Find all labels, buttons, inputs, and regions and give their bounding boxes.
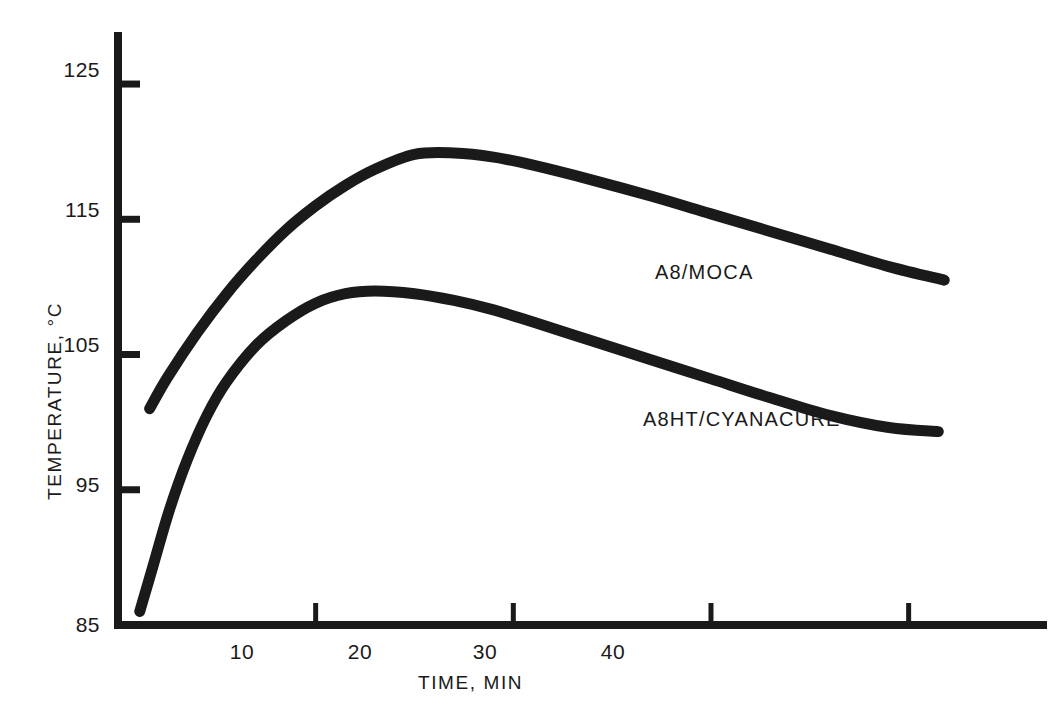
x-axis-title: TIME, MIN bbox=[418, 672, 523, 694]
data-curves-group bbox=[140, 153, 944, 612]
chart-figure: 125 115 105 95 85 10 20 30 40 A8/MOCA A8… bbox=[0, 0, 1052, 727]
xtick-label-20: 20 bbox=[330, 640, 390, 664]
xtick-label-30: 30 bbox=[455, 640, 515, 664]
xtick-label-10: 10 bbox=[212, 640, 272, 664]
series-label-a8-moca: A8/MOCA bbox=[655, 261, 753, 284]
ytick-label-115: 115 bbox=[40, 198, 100, 222]
xtick-label-40: 40 bbox=[583, 640, 643, 664]
series-label-a8ht-cyanacure: A8HT/CYANACURE bbox=[643, 408, 841, 431]
axes-group bbox=[114, 32, 1047, 625]
ytick-label-85: 85 bbox=[40, 613, 100, 637]
plot-canvas bbox=[0, 0, 1052, 727]
y-axis-title: TEMPERATURE, °C bbox=[44, 302, 66, 500]
ytick-label-125: 125 bbox=[40, 58, 100, 82]
curve-a8-moca bbox=[150, 153, 945, 409]
curve-a8ht-cyanacure bbox=[140, 291, 939, 612]
